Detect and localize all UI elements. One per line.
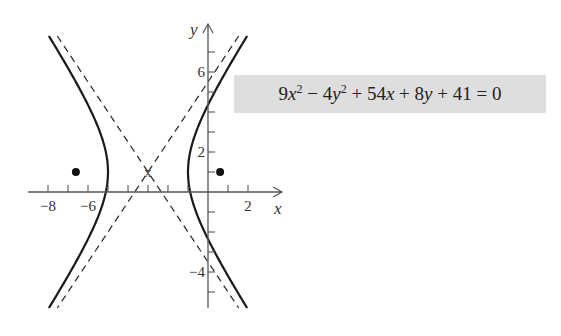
equation-label: 9x2 − 4y2 + 54x + 8y + 41 = 0 bbox=[234, 75, 546, 113]
x-tick-label: −8 bbox=[40, 198, 56, 214]
y-tick-label: −4 bbox=[189, 264, 205, 280]
x-tick-label: 2 bbox=[244, 198, 252, 214]
center-marker: x bbox=[144, 164, 152, 180]
x-axis-label: x bbox=[273, 199, 282, 218]
x-tick-label: −6 bbox=[80, 198, 96, 214]
focus-point bbox=[72, 168, 80, 176]
axis-labels: −8−6262−4xy bbox=[40, 20, 282, 280]
focus-point bbox=[216, 168, 224, 176]
y-tick-label: 6 bbox=[198, 64, 206, 80]
point-markers: x bbox=[72, 164, 224, 180]
y-axis-label: y bbox=[188, 20, 198, 39]
y-tick-label: 2 bbox=[198, 144, 206, 160]
equation-text: 9x2 − 4y2 + 54x + 8y + 41 = 0 bbox=[279, 82, 502, 105]
hyperbola-graph: x −8−6262−4xy bbox=[0, 0, 561, 336]
